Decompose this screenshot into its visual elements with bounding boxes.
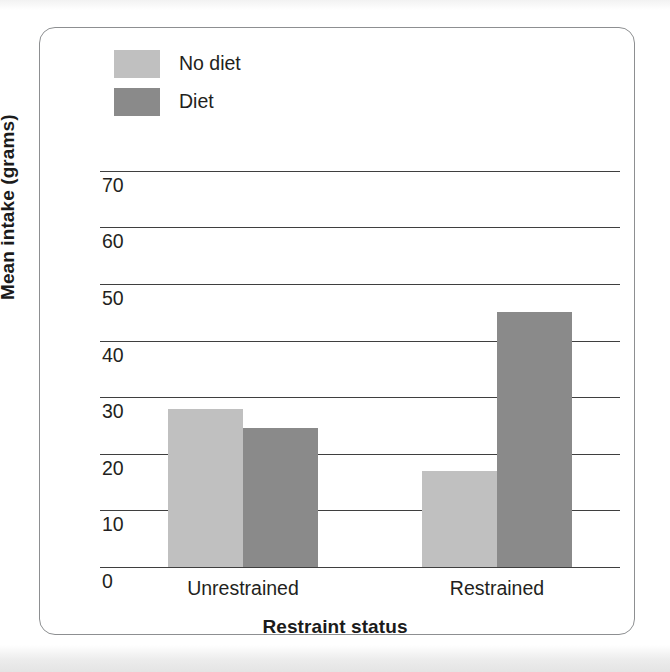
y-axis-title: Mean intake (grams) <box>0 114 19 300</box>
legend-label-no-diet: No diet <box>179 54 241 74</box>
bar-restrained-diet <box>497 312 572 567</box>
legend-item-diet: Diet <box>114 83 354 121</box>
y-tick-label-30: 30 <box>102 402 124 422</box>
gridline-50 <box>100 284 620 285</box>
page-scan-edge-top <box>0 0 670 10</box>
plot-area: 010203040506070UnrestrainedRestrained <box>100 160 620 570</box>
gridline-70 <box>100 171 620 172</box>
y-tick-label-70: 70 <box>102 176 124 196</box>
y-tick-label-20: 20 <box>102 459 124 479</box>
x-axis-line <box>100 567 620 568</box>
bar-restrained-no-diet <box>422 471 497 567</box>
legend-item-no-diet: No diet <box>114 45 354 83</box>
page-scan-edge-bottom <box>0 645 670 672</box>
y-tick-label-40: 40 <box>102 346 124 366</box>
y-tick-label-60: 60 <box>102 232 124 252</box>
bar-unrestrained-no-diet <box>168 409 243 567</box>
x-axis-title: Restraint status <box>0 616 670 638</box>
x-tick-label-unrestrained: Unrestrained <box>128 579 358 599</box>
legend-swatch-diet <box>114 88 160 116</box>
gridline-60 <box>100 227 620 228</box>
legend-label-diet: Diet <box>179 92 214 112</box>
y-tick-label-0: 0 <box>102 572 113 592</box>
chart-legend: No diet Diet <box>114 45 354 121</box>
bar-unrestrained-diet <box>243 428 318 567</box>
x-tick-label-restrained: Restrained <box>382 579 612 599</box>
legend-swatch-no-diet <box>114 50 160 78</box>
y-tick-label-50: 50 <box>102 289 124 309</box>
y-tick-label-10: 10 <box>102 515 124 535</box>
figure-container: No diet Diet 010203040506070Unrestrained… <box>0 0 670 672</box>
